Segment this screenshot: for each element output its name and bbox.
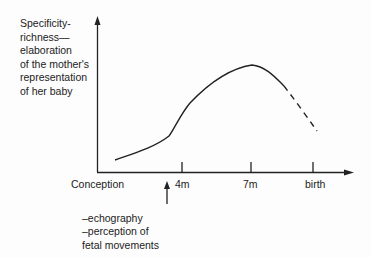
tick-label-birth: birth bbox=[305, 178, 325, 190]
tick-label-4m: 4m bbox=[175, 178, 190, 190]
y-axis-arrow-icon bbox=[95, 16, 101, 25]
curve-solid bbox=[115, 65, 284, 160]
chart-plot bbox=[0, 0, 371, 258]
annotation-note: –echography –perception of fetal movemen… bbox=[82, 212, 159, 252]
tick-label-conception: Conception bbox=[71, 178, 124, 190]
curve-dashed bbox=[284, 86, 317, 131]
x-axis-arrow-icon bbox=[344, 170, 354, 176]
annotation-arrow-icon bbox=[164, 181, 170, 189]
tick-label-7m: 7m bbox=[243, 178, 258, 190]
